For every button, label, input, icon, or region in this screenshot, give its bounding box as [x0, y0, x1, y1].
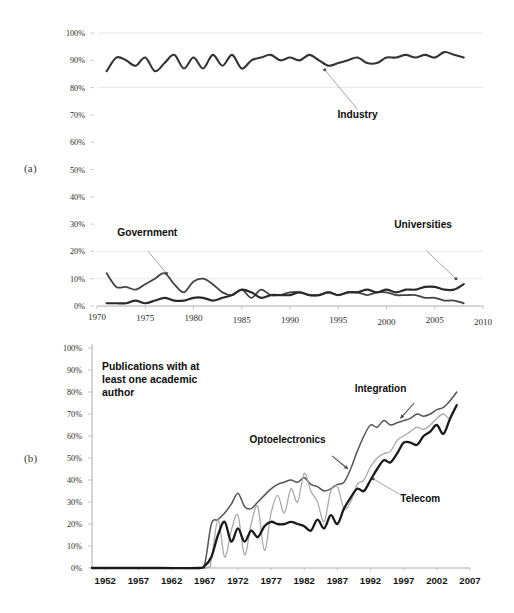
- series-line-industry: [107, 52, 464, 71]
- figure-container: (a) (b) 0%10%20%30%40%50%60%70%80%90%100…: [0, 0, 514, 613]
- y-tick-label: 70%: [70, 111, 85, 120]
- x-tick-label: 1977: [260, 575, 281, 586]
- x-axis-b: 1952195719621967197219771982198719921997…: [95, 568, 481, 586]
- x-tick-label: 1962: [161, 575, 182, 586]
- annotation-optoelectronics: Optoelectronics: [250, 434, 327, 445]
- annotation-government: Government: [117, 227, 178, 238]
- chart-panel-b: 0%10%20%30%40%50%60%70%80%90%100%1952195…: [0, 330, 514, 613]
- y-axis-b: 0%10%20%30%40%50%60%70%80%90%100%: [63, 344, 92, 573]
- x-tick-label: 1967: [194, 575, 215, 586]
- y-tick-label: 100%: [66, 29, 85, 38]
- y-tick-label: 50%: [67, 454, 82, 463]
- y-tick-label: 10%: [70, 275, 85, 284]
- x-tick-label: 1957: [128, 575, 149, 586]
- y-tick-label: 0%: [74, 302, 85, 311]
- annotation-universities: Universities: [394, 219, 452, 230]
- x-tick-label: 2007: [459, 575, 480, 586]
- y-tick-label: 80%: [70, 84, 85, 93]
- x-tick-label: 1992: [360, 575, 381, 586]
- annotation-telecom: Telecom: [400, 493, 440, 504]
- annotation-industry: Industry: [337, 109, 378, 120]
- note-block: Publications with atleast one academicau…: [102, 361, 200, 398]
- leader-dot: [454, 277, 457, 280]
- y-tick-label: 60%: [67, 432, 82, 441]
- x-tick-label: 1987: [327, 575, 348, 586]
- y-tick-label: 50%: [70, 166, 85, 175]
- series-group-b: [92, 392, 457, 569]
- gridlines-a: [97, 33, 483, 306]
- x-tick-label: 2005: [426, 315, 445, 325]
- y-axis-a: 0%10%20%30%40%50%60%70%80%90%100%: [66, 29, 94, 311]
- y-tick-label: 90%: [70, 56, 85, 65]
- x-tick-label: 1972: [227, 575, 248, 586]
- y-tick-label: 70%: [67, 410, 82, 419]
- x-tick-label: 1952: [95, 575, 116, 586]
- y-tick-label: 20%: [67, 520, 82, 529]
- y-tick-label: 30%: [70, 220, 85, 229]
- leader-dot: [323, 68, 326, 71]
- y-tick-label: 80%: [67, 388, 82, 397]
- y-tick-label: 90%: [67, 366, 82, 375]
- x-tick-label: 1995: [329, 315, 348, 325]
- leader-dot: [372, 478, 375, 481]
- x-axis-a: 197019751980198519901995200020052010: [88, 306, 493, 327]
- x-tick-label: 2000: [378, 317, 397, 327]
- annotations-a: IndustryGovernmentUniversities: [117, 68, 457, 280]
- x-tick-label: 1985: [233, 315, 252, 325]
- x-tick-label: 1982: [294, 575, 315, 586]
- note-line: least one academic: [102, 374, 198, 385]
- leader-line-telecom: [373, 479, 400, 494]
- x-tick-label: 2010: [474, 317, 493, 327]
- series-line-integration: [92, 392, 457, 568]
- x-tick-label: 1980: [185, 313, 204, 323]
- x-tick-label: 1997: [393, 575, 414, 586]
- leader-dot: [165, 272, 168, 275]
- annotation-integration: Integration: [355, 383, 407, 394]
- chart-panel-a: 0%10%20%30%40%50%60%70%80%90%100%1970197…: [0, 0, 514, 330]
- y-tick-label: 30%: [67, 498, 82, 507]
- note-line: Publications with at: [102, 361, 200, 372]
- y-tick-label: 40%: [70, 193, 85, 202]
- leader-line: [427, 251, 456, 278]
- x-tick-label: 1975: [136, 313, 155, 323]
- y-tick-label: 100%: [63, 344, 82, 353]
- x-tick-label: 1990: [281, 315, 300, 325]
- y-tick-label: 40%: [67, 476, 82, 485]
- x-tick-label: 1970: [88, 312, 107, 322]
- y-tick-label: 10%: [67, 542, 82, 551]
- note-line: author: [102, 387, 134, 398]
- y-tick-label: 0%: [71, 564, 82, 573]
- y-tick-label: 60%: [70, 138, 85, 147]
- x-tick-label: 2002: [426, 575, 447, 586]
- leader-line: [325, 70, 358, 110]
- leader-line: [148, 251, 166, 273]
- y-tick-label: 20%: [70, 247, 85, 256]
